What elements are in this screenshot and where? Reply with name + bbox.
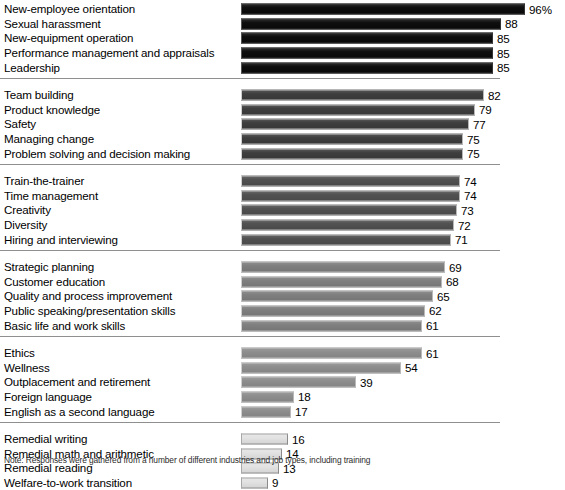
value-label: 85	[497, 47, 510, 59]
chart-row: Remedial writing16	[0, 432, 565, 447]
chart-row: New-employee orientation96%	[0, 2, 565, 17]
value-bar	[241, 391, 294, 402]
value-label: 61	[426, 347, 439, 359]
chart-row: Train-the-trainer74	[0, 174, 565, 189]
bar-wrap: 65	[241, 291, 450, 302]
bar-wrap: 9	[241, 477, 278, 488]
value-bar	[241, 190, 460, 201]
value-label: 69	[449, 261, 462, 273]
value-bar	[241, 33, 493, 44]
bar-wrap: 75	[241, 134, 480, 145]
value-label: 79	[479, 104, 492, 116]
bar-wrap: 68	[241, 276, 459, 287]
bar-wrap: 18	[241, 391, 311, 402]
category-label: Train-the-trainer	[4, 175, 84, 187]
value-label: 17	[295, 406, 308, 418]
value-bar	[241, 320, 422, 331]
group-gap	[0, 337, 565, 346]
bar-wrap: 16	[241, 434, 305, 445]
category-label: Basic life and work skills	[4, 320, 125, 332]
category-label: Wellness	[4, 362, 50, 374]
group-4: Strategic planning69Customer education68…	[0, 260, 565, 333]
category-label: Managing change	[4, 133, 94, 145]
bar-wrap: 54	[241, 362, 418, 373]
value-label: 65	[437, 290, 450, 302]
category-label: Foreign language	[4, 391, 92, 403]
value-bar	[241, 262, 445, 273]
value-label: 77	[473, 118, 486, 130]
value-bar	[241, 305, 425, 316]
value-label: 54	[405, 362, 418, 374]
value-label: 85	[497, 62, 510, 74]
value-label: 9	[272, 477, 278, 489]
bar-wrap: 96%	[241, 4, 552, 15]
category-label: Time management	[4, 190, 98, 202]
group-divider	[0, 78, 500, 79]
value-label: 73	[461, 204, 474, 216]
value-label: 85	[497, 32, 510, 44]
value-bar	[241, 134, 463, 145]
chart-footnote: Note: Responses were gathered from a num…	[4, 456, 370, 465]
value-label: 74	[464, 175, 477, 187]
chart-row: Time management74	[0, 189, 565, 204]
category-label: Performance management and appraisals	[4, 47, 214, 59]
category-label: Public speaking/presentation skills	[4, 305, 175, 317]
bar-wrap: 85	[241, 62, 510, 73]
category-label: Hiring and interviewing	[4, 234, 118, 246]
chart-row: Sexual harassment88	[0, 17, 565, 32]
bar-wrap: 72	[241, 220, 471, 231]
group-1: New-employee orientation96%Sexual harass…	[0, 2, 565, 75]
chart-row: Public speaking/presentation skills62	[0, 304, 565, 319]
chart-row: Welfare-to-work transition9	[0, 476, 565, 490]
value-bar	[241, 104, 475, 115]
group-divider	[0, 164, 500, 165]
bar-wrap: 71	[241, 234, 468, 245]
bar-wrap: 39	[241, 377, 373, 388]
value-label: 39	[360, 376, 373, 388]
value-label: 72	[458, 219, 471, 231]
value-bar	[241, 48, 493, 59]
chart-row: Strategic planning69	[0, 260, 565, 275]
category-label: Safety	[4, 118, 36, 130]
bar-wrap: 74	[241, 176, 477, 187]
value-bar	[241, 18, 501, 29]
value-bar	[241, 62, 493, 73]
value-bar	[241, 362, 401, 373]
value-label: 18	[298, 391, 311, 403]
bar-wrap: 82	[241, 90, 501, 101]
value-bar	[241, 234, 451, 245]
value-label: 88	[505, 18, 518, 30]
value-label: 61	[426, 320, 439, 332]
value-label: 62	[429, 305, 442, 317]
category-label: English as a second language	[4, 406, 155, 418]
value-label: 71	[455, 234, 468, 246]
bar-wrap: 61	[241, 348, 439, 359]
category-label: Sexual harassment	[4, 18, 101, 30]
group-3: Train-the-trainer74Time management74Crea…	[0, 174, 565, 247]
chart-row: Managing change75	[0, 132, 565, 147]
value-bar	[241, 348, 422, 359]
bar-wrap: 85	[241, 33, 510, 44]
chart-row: Problem solving and decision making75	[0, 146, 565, 161]
chart-row: Safety77	[0, 117, 565, 132]
value-label: 75	[467, 133, 480, 145]
bar-wrap: 73	[241, 205, 474, 216]
category-label: Quality and process improvement	[4, 290, 172, 302]
chart-row: Creativity73	[0, 203, 565, 218]
group-divider	[0, 336, 500, 337]
value-bar	[241, 90, 484, 101]
value-bar	[241, 377, 356, 388]
chart-row: Outplacement and retirement39	[0, 375, 565, 390]
value-bar	[241, 148, 463, 159]
bar-wrap: 85	[241, 48, 510, 59]
chart-row: Team building82	[0, 88, 565, 103]
value-label: 74	[464, 190, 477, 202]
value-label: 16	[292, 433, 305, 445]
group-gap	[0, 165, 565, 174]
value-label: 96%	[529, 3, 552, 15]
chart-row: New-equipment operation85	[0, 31, 565, 46]
category-label: Leadership	[4, 62, 60, 74]
bar-wrap: 61	[241, 320, 439, 331]
chart-row: Performance management and appraisals85	[0, 46, 565, 61]
category-label: Welfare-to-work transition	[4, 477, 132, 489]
